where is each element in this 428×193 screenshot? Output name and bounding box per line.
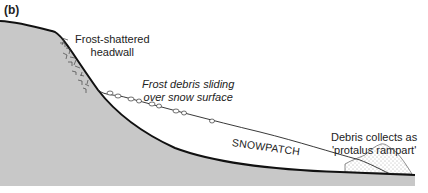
debris-sliding-label-line2: over snow surface	[142, 91, 234, 104]
protalus-rampart-label: Debris collects as 'protalus rampart'	[331, 131, 417, 157]
panel-label: (b)	[4, 3, 19, 17]
rampart-label-line2: 'protalus rampart'	[331, 144, 417, 157]
rampart-label-line1: Debris collects as	[331, 131, 417, 144]
snowpatch-diagram: (b) Frost-shattered headwall Frost debri…	[0, 0, 428, 193]
headwall-label: Frost-shattered headwall	[75, 33, 150, 59]
debris-sliding-label: Frost debris sliding over snow surface	[142, 78, 234, 104]
headwall-label-line1: Frost-shattered	[75, 33, 150, 46]
debris-sliding-label-line1: Frost debris sliding	[142, 78, 234, 91]
headwall-label-line2: headwall	[75, 46, 150, 59]
